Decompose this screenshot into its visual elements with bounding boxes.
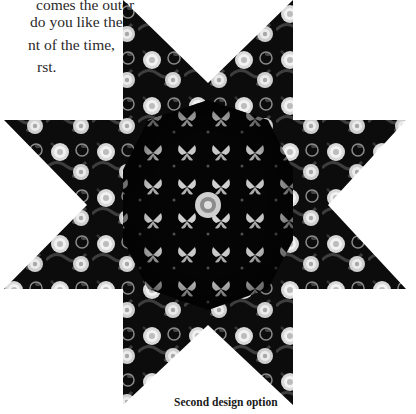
caption-text: Second design option [174,396,278,408]
star-quilt-figure [0,0,416,414]
center-rosette [195,192,221,218]
